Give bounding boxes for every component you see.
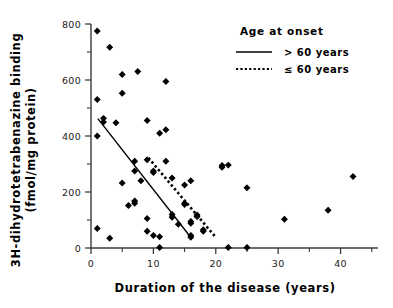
y-tick-label: 600 xyxy=(62,75,81,86)
data-point xyxy=(95,97,100,102)
legend: Age at onset > 60 years ≤ 60 years xyxy=(236,25,349,75)
data-point xyxy=(107,45,112,50)
legend-label-over-60: > 60 years xyxy=(284,47,349,58)
data-point xyxy=(144,118,149,123)
data-point xyxy=(151,233,156,238)
y-tick-label: 200 xyxy=(62,187,81,198)
x-tick-label: 40 xyxy=(334,258,347,269)
data-point xyxy=(244,245,249,250)
x-tick-label: 0 xyxy=(88,258,94,269)
data-point xyxy=(157,131,162,136)
scatter-plot: 3H-dihydrotetrabenazine binding (fmol/mg… xyxy=(0,0,393,308)
data-point xyxy=(169,175,174,180)
over-60-regression xyxy=(98,119,192,239)
data-point xyxy=(107,236,112,241)
data-point xyxy=(95,226,100,231)
data-point xyxy=(144,216,149,221)
data-point xyxy=(119,90,124,95)
y-axis-label-line2: (fmol/mg protein) xyxy=(24,87,38,212)
x-axis-ticks: 010203040 xyxy=(88,248,372,269)
data-point xyxy=(182,182,187,187)
data-point xyxy=(350,174,355,179)
data-point xyxy=(282,216,287,221)
data-point xyxy=(135,69,140,74)
x-tick-label: 30 xyxy=(272,258,285,269)
x-tick-label: 10 xyxy=(147,258,160,269)
legend-title: Age at onset xyxy=(240,25,324,37)
data-point xyxy=(226,245,231,250)
x-axis-label: Duration of the disease (years) xyxy=(114,281,335,295)
data-point xyxy=(157,234,162,239)
y-tick-label: 400 xyxy=(62,131,81,142)
data-point xyxy=(119,180,124,185)
y-tick-label: 0 xyxy=(75,243,81,254)
data-point xyxy=(113,120,118,125)
data-point-group xyxy=(95,28,356,250)
data-point xyxy=(163,159,168,164)
data-point xyxy=(126,203,131,208)
data-point xyxy=(138,178,143,183)
data-point xyxy=(95,133,100,138)
y-axis-ticks: 0200400600800 xyxy=(62,19,91,254)
data-point xyxy=(244,185,249,190)
data-point xyxy=(95,28,100,33)
data-point xyxy=(119,72,124,77)
chart-figure: 3H-dihydrotetrabenazine binding (fmol/mg… xyxy=(0,0,393,308)
data-point xyxy=(188,178,193,183)
data-point xyxy=(144,229,149,234)
data-point xyxy=(163,79,168,84)
data-point xyxy=(157,245,162,250)
legend-label-under-60: ≤ 60 years xyxy=(284,64,349,75)
y-axis-label-line1: 3H-dihydrotetrabenazine binding xyxy=(9,33,23,267)
data-point xyxy=(226,162,231,167)
data-point xyxy=(163,127,168,132)
data-point xyxy=(325,208,330,213)
y-tick-label: 800 xyxy=(62,19,81,30)
regression-line-group xyxy=(98,119,216,239)
x-tick-label: 20 xyxy=(209,258,222,269)
